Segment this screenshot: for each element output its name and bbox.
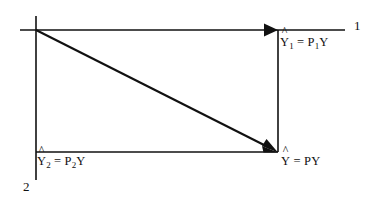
yhat1-rhs-symbol: P [307, 35, 314, 49]
yhat1-hat-icon: ^ [282, 26, 288, 38]
yhat2-subscript: 2 [46, 160, 51, 170]
arrowhead-axis-1-icon [264, 24, 278, 37]
yhat1-hatted-symbol: ^Y [280, 36, 289, 49]
label-yhat2: ^Y2=P2Y [37, 155, 85, 170]
yhat2-rhs-tail: Y [76, 154, 85, 168]
projection-diagram: ^Y1=P1Y ^Y2=P2Y ^Y=PY 1 2 [0, 0, 380, 207]
yhat-rhs-tail: Y [311, 154, 320, 168]
yhat-hat-icon: ^ [283, 145, 289, 157]
yhat1-equals: = [297, 35, 304, 49]
yhat1-rhs-tail: Y [319, 35, 328, 49]
yhat2-hat-icon: ^ [39, 145, 45, 157]
label-yhat1: ^Y1=P1Y [280, 36, 328, 51]
axis-1-label: 1 [354, 19, 361, 32]
yhat-hatted-symbol: ^Y [281, 155, 290, 168]
yhat2-hatted-symbol: ^Y [37, 155, 46, 168]
yhat2-equals: = [54, 154, 61, 168]
yhat2-rhs-symbol: P [64, 154, 71, 168]
yhat1-subscript: 1 [289, 41, 294, 51]
diagonal-vector-line [36, 30, 270, 148]
yhat-equals: = [293, 154, 300, 168]
axis-2-label: 2 [23, 180, 30, 193]
diagram-canvas [0, 0, 380, 207]
label-yhat: ^Y=PY [281, 155, 320, 168]
